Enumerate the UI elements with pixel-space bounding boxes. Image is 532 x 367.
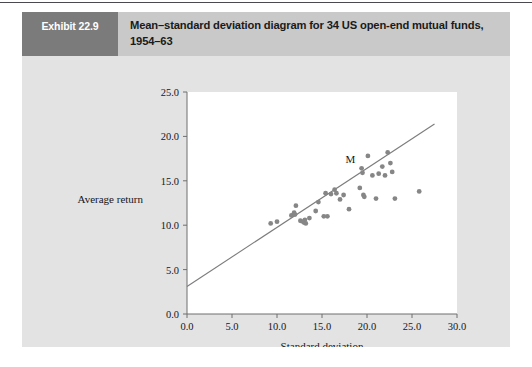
data-point [366, 154, 371, 159]
data-point [362, 194, 367, 199]
data-point [338, 197, 343, 202]
data-point [329, 192, 334, 197]
x-tick-label: 0.0 [180, 321, 193, 332]
data-point [385, 150, 390, 155]
data-point [359, 166, 364, 171]
y-axis-title: Average return [78, 193, 144, 205]
data-point [388, 161, 393, 166]
x-tick-label: 20.0 [358, 321, 376, 332]
data-point [323, 191, 328, 196]
plot-background [187, 92, 457, 314]
data-point [370, 173, 375, 178]
data-point [341, 193, 346, 198]
x-tick-label: 5.0 [225, 321, 238, 332]
y-tick-label: 5.0 [166, 265, 179, 276]
data-point [417, 189, 422, 194]
data-point [294, 203, 299, 208]
y-tick-label: 15.0 [161, 176, 179, 187]
exhibit-number-tag: Exhibit 22.9 [22, 12, 118, 56]
x-tick-label: 30.0 [448, 321, 466, 332]
data-point [380, 164, 385, 169]
chart-area: 0.05.010.015.020.025.030.00.05.010.015.0… [22, 56, 510, 347]
scatter-plot: 0.05.010.015.020.025.030.00.05.010.015.0… [22, 56, 510, 347]
data-point [268, 221, 273, 226]
data-point [334, 191, 339, 196]
y-tick-label: 25.0 [161, 87, 179, 98]
data-point [390, 170, 395, 175]
exhibit-card: Exhibit 22.9 Mean–standard deviation dia… [22, 12, 510, 347]
page-top-rule [0, 2, 532, 3]
y-tick-label: 0.0 [166, 309, 179, 320]
data-point [376, 171, 381, 176]
data-point [313, 209, 318, 214]
x-axis-title: Standard deviation [281, 340, 364, 347]
exhibit-title: Mean–standard deviation diagram for 34 U… [130, 18, 485, 49]
y-tick-label: 20.0 [161, 131, 179, 142]
x-tick-label: 25.0 [403, 321, 421, 332]
data-point [316, 200, 321, 205]
data-point [303, 221, 308, 226]
y-tick-label: 10.0 [161, 220, 179, 231]
data-point [360, 170, 365, 175]
x-tick-label: 15.0 [313, 321, 331, 332]
annotation-label-m: M [346, 153, 356, 165]
data-point [393, 196, 398, 201]
data-point [374, 196, 379, 201]
data-point [307, 216, 312, 221]
data-point [347, 207, 352, 212]
data-point [325, 214, 330, 219]
data-point [293, 212, 298, 217]
data-point [383, 173, 388, 178]
data-point [357, 186, 362, 191]
data-point [275, 219, 280, 224]
x-tick-label: 10.0 [268, 321, 286, 332]
exhibit-header: Exhibit 22.9 Mean–standard deviation dia… [22, 12, 510, 56]
